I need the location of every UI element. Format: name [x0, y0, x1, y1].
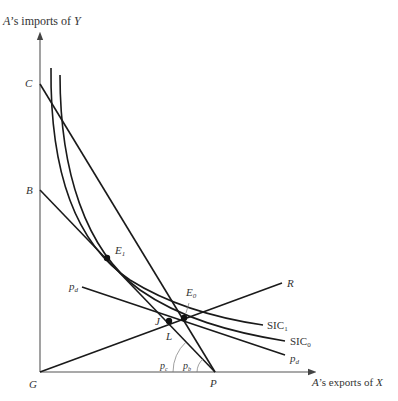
ray-r-label: R	[286, 277, 294, 289]
point-j-label: J	[155, 315, 161, 327]
point-e1	[104, 255, 110, 261]
intercept-p-label: P	[209, 377, 217, 389]
price-pc-label: pc	[159, 360, 168, 372]
y-axis-label: A’s imports of Y	[2, 14, 82, 28]
intercept-b-label: B	[26, 184, 33, 196]
intercept-c-label: C	[25, 77, 33, 89]
price-pd-label-left: pd	[68, 280, 79, 294]
price-pd-label-right: pd	[289, 352, 300, 366]
point-l-label: L	[165, 330, 172, 342]
point-j	[166, 318, 172, 324]
sic0-label: SIC0	[290, 335, 311, 349]
origin-label: G	[29, 378, 37, 390]
sic1-label: SIC1	[267, 319, 288, 333]
price-line-bp	[40, 190, 215, 372]
point-e1-label: E1	[114, 244, 125, 258]
point-e0	[181, 315, 187, 321]
x-axis-label: A’s exports of X	[311, 376, 384, 388]
point-e0-label: E0	[185, 286, 197, 300]
angle-arc-pb	[197, 359, 203, 372]
price-line-cp	[40, 84, 215, 372]
price-pb-label: pb	[182, 360, 191, 372]
trade-equilibrium-diagram: A’s imports of Y A’s exports of X G C B …	[0, 0, 398, 401]
